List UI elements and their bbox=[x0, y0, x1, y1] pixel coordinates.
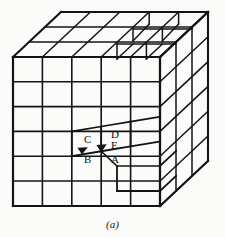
bottom-block-edge-1 bbox=[160, 191, 176, 206]
right-face-top-edge bbox=[160, 12, 208, 57]
top-grid-line-v4 bbox=[131, 12, 179, 57]
vertex-label-a: A bbox=[111, 154, 119, 165]
right-face-group bbox=[160, 12, 208, 206]
vertex-label-c: C bbox=[84, 134, 91, 145]
vertex-label-b: B bbox=[84, 154, 91, 165]
bottom-block-edge-3 bbox=[192, 161, 208, 176]
top-face-left-edge bbox=[13, 12, 61, 57]
front-face-group bbox=[13, 57, 160, 206]
figure-container: C D E B A (a) bbox=[0, 0, 225, 237]
right-grid-diag-3 bbox=[160, 86, 208, 131]
right-grid-diag-2 bbox=[160, 62, 208, 107]
top-grid-line-v3 bbox=[101, 12, 149, 57]
bottom-block-edge-2 bbox=[176, 176, 192, 191]
top-grid-line-v1 bbox=[42, 12, 90, 57]
top-grid-line-v2 bbox=[72, 12, 120, 57]
right-grid-diag-4 bbox=[160, 111, 208, 156]
cube-diagram bbox=[0, 0, 225, 237]
vertex-label-e: E bbox=[111, 140, 118, 151]
figure-caption: (a) bbox=[0, 218, 225, 230]
